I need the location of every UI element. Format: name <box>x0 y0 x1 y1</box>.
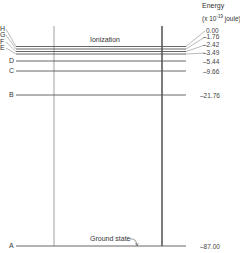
leader-h-left <box>6 29 16 47</box>
level-value-d: –5.44 <box>203 58 219 65</box>
level-label-b: B <box>9 91 14 99</box>
level-label-a: A <box>9 242 14 250</box>
energy-axis-unit: (x 10-19 joule) <box>202 13 240 23</box>
energy-axis-title: Energy <box>202 2 224 10</box>
level-value-b: –21.76 <box>200 92 220 99</box>
level-value-f: –2.42 <box>203 41 219 48</box>
level-label-e: E <box>0 44 5 52</box>
level-value-g: –1.76 <box>203 33 219 40</box>
level-label-d: D <box>9 57 14 65</box>
level-value-a: –87.00 <box>200 243 220 250</box>
unit-suffix: joule) <box>223 15 240 22</box>
level-value-e: –3.49 <box>203 49 219 56</box>
leader-e-left <box>6 48 16 54</box>
level-value-c: –9.66 <box>203 68 219 75</box>
ionization-label: Ionization <box>90 36 120 44</box>
unit-prefix: (x 10 <box>202 15 216 22</box>
level-label-c: C <box>9 67 14 75</box>
ground-state-label: Ground state <box>90 235 130 243</box>
